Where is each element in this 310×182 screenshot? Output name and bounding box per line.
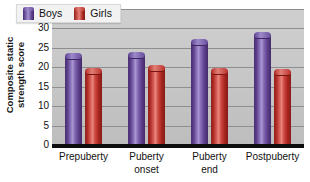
plot-area [52, 9, 304, 145]
bar-puberty-onset-girls[interactable] [148, 65, 165, 145]
legend-label-boys: Boys [39, 8, 62, 19]
bar-group [115, 9, 178, 145]
y-axis-title-line-1: Composite static [4, 37, 15, 114]
y-axis-tick-label: 20 [38, 62, 49, 72]
y-axis-tick-labels: 05101520253035 [28, 9, 49, 145]
legend-label-girls: Girls [90, 8, 112, 19]
legend-swatch-girls-icon [74, 7, 85, 20]
bar-prepuberty-girls[interactable] [85, 68, 102, 145]
bar-group [52, 9, 115, 145]
bar-puberty-onset-boys[interactable] [128, 52, 145, 145]
y-axis-tick-label: 15 [38, 82, 49, 92]
bar-postpuberty-girls[interactable] [274, 69, 291, 145]
legend-swatch-boys-icon [23, 7, 34, 20]
bars-layer [52, 9, 304, 145]
legend-item-girls[interactable]: Girls [74, 7, 112, 20]
bar-group [241, 9, 304, 145]
x-axis-baseline [52, 144, 304, 148]
y-axis-tick-label: 5 [43, 121, 49, 131]
legend: Boys Girls [16, 4, 121, 23]
y-axis-tick-label: 30 [38, 23, 49, 33]
y-axis-tick-label: 10 [38, 101, 49, 111]
bar-chart: Composite static strength score 05101520… [0, 0, 310, 182]
legend-item-boys[interactable]: Boys [23, 7, 62, 20]
bar-prepuberty-boys[interactable] [65, 53, 82, 145]
bar-group [178, 9, 241, 145]
y-axis-tick-label: 25 [38, 43, 49, 53]
y-axis-title-line-2: strength score [15, 37, 26, 114]
bar-postpuberty-boys[interactable] [254, 32, 271, 145]
bar-puberty-end-boys[interactable] [191, 39, 208, 145]
x-axis-tick-label: Postpuberty [235, 150, 310, 163]
x-axis-tick-labels: PrepubertyPuberty onsetPuberty endPostpu… [52, 150, 304, 182]
bar-puberty-end-girls[interactable] [211, 68, 228, 145]
y-axis-tick-label: 0 [43, 140, 49, 150]
